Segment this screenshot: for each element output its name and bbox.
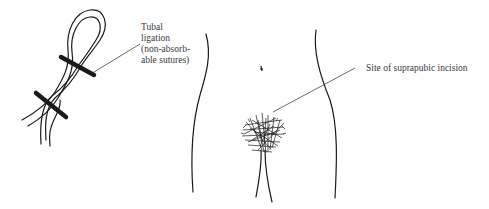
fallopian-tube-loop-drawing [22, 10, 105, 146]
pubic-hair-region [241, 113, 286, 153]
navel-mark [260, 66, 263, 71]
inner-thigh-lines [256, 150, 272, 202]
incision-site-label: Site of suprapubic incision [366, 63, 468, 74]
tubal-ligation-label-line-1: Tubal [141, 22, 190, 33]
tubal-ligation-leader-line [94, 44, 140, 72]
incision-leader-line [273, 68, 355, 112]
right-body-contour [315, 30, 336, 198]
tubal-ligation-and-abdomen-diagram [0, 0, 489, 209]
abdomen-outline [192, 30, 337, 198]
tubal-ligation-label-line-4: able sutures) [141, 55, 190, 66]
tubal-ligation-label: Tubal ligation (non-absorb- able sutures… [141, 22, 190, 66]
tubal-ligation-label-line-3: (non-absorb- [141, 44, 190, 55]
left-body-contour [192, 34, 209, 192]
tubal-ligation-label-line-2: ligation [141, 33, 190, 44]
